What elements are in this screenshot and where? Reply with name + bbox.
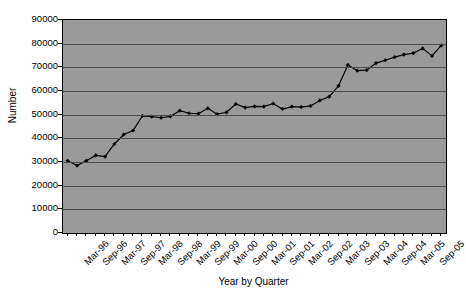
gridline <box>63 115 446 116</box>
data-point-marker <box>393 55 397 59</box>
data-point-marker <box>159 116 163 120</box>
gridline <box>63 67 446 68</box>
x-tick-label: Mar-98 <box>156 238 185 267</box>
x-tick-label: Sep-00 <box>250 238 279 267</box>
y-tick-label: 80000 <box>12 38 58 47</box>
y-tick-label: 0 <box>12 227 58 236</box>
x-tick-label: Mar-03 <box>343 238 372 267</box>
series-line-chart <box>63 20 446 233</box>
x-tick-label: Mar-05 <box>418 238 447 267</box>
gridline <box>63 186 446 187</box>
x-axis-title: Year by Quarter <box>62 276 445 287</box>
x-tick-label: Sep-03 <box>362 238 391 267</box>
plot-area <box>62 19 447 234</box>
y-axis-tick-labels: 0100002000030000400005000060000700008000… <box>10 0 58 232</box>
data-point-marker <box>299 105 303 109</box>
x-tick-label: Mar-01 <box>268 238 297 267</box>
data-point-marker <box>402 52 406 56</box>
data-point-marker <box>290 105 294 109</box>
x-tick-label: Mar-00 <box>231 238 260 267</box>
x-tick-label: Sep-99 <box>212 238 241 267</box>
y-tick-label: 70000 <box>12 61 58 70</box>
gridline <box>63 162 446 163</box>
y-tick-label: 90000 <box>12 14 58 23</box>
x-tick-label: Sep-04 <box>399 238 428 267</box>
y-tick-label: 60000 <box>12 85 58 94</box>
x-tick-label: Mar-99 <box>194 238 223 267</box>
x-tick-label: Sep-05 <box>437 238 466 267</box>
x-tick-label: Sep-98 <box>175 238 204 267</box>
x-tick-label: Mar-02 <box>306 238 335 267</box>
data-point-marker <box>411 51 415 55</box>
gridline <box>63 209 446 210</box>
y-tick-label: 30000 <box>12 156 58 165</box>
y-tick-label: 20000 <box>12 180 58 189</box>
x-tick-label: Mar-04 <box>380 238 409 267</box>
data-point-marker <box>262 105 266 109</box>
gridline <box>63 138 446 139</box>
y-tick-label: 50000 <box>12 109 58 118</box>
data-point-marker <box>243 105 247 109</box>
x-tick-label: Sep-02 <box>325 238 354 267</box>
x-tick-label: Mar-96 <box>81 238 110 267</box>
y-tick-label: 10000 <box>12 203 58 212</box>
x-tick-label: Sep-01 <box>287 238 316 267</box>
gridline <box>63 91 446 92</box>
gridline <box>63 44 446 45</box>
x-tick-label: Sep-96 <box>100 238 129 267</box>
data-point-marker <box>75 163 79 167</box>
y-tick-label: 40000 <box>12 132 58 141</box>
data-point-marker <box>252 104 256 108</box>
x-tick-label: Mar-97 <box>119 238 148 267</box>
x-tick-label: Sep-97 <box>138 238 167 267</box>
data-point-marker <box>383 58 387 62</box>
